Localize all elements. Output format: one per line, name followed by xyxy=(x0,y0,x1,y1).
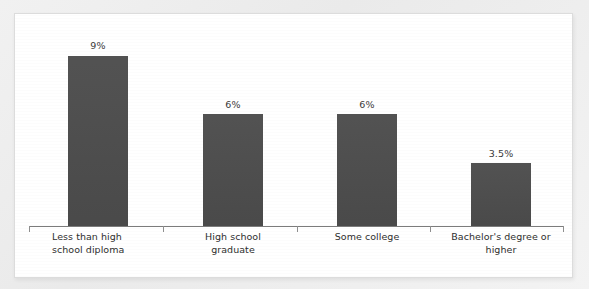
x-axis-tick-0 xyxy=(29,226,30,232)
bar-value-label-2: 6% xyxy=(337,99,397,110)
x-axis-tick-1 xyxy=(163,226,164,232)
bar-bachelors-degree-or-higher xyxy=(471,163,531,226)
x-axis-tick-4 xyxy=(563,226,564,232)
x-axis-category-label-1: High school graduate xyxy=(183,231,283,256)
bar-value-label-1: 6% xyxy=(203,99,263,110)
x-axis-category-label-3: Bachelor's degree or higher xyxy=(441,231,561,256)
bar-value-label-3: 3.5% xyxy=(471,148,531,159)
bar-value-label-0: 9% xyxy=(68,40,128,51)
bar-high-school-graduate xyxy=(203,114,263,226)
x-axis-category-label-0: Less than high school diploma xyxy=(52,231,152,256)
bar-less-than-high-school-diploma xyxy=(68,56,128,226)
chart-page: 9% Less than high school diploma 6% High… xyxy=(0,0,589,289)
x-axis-tick-3 xyxy=(430,226,431,232)
x-axis-tick-2 xyxy=(297,226,298,232)
bar-chart-plot-area: 9% Less than high school diploma 6% High… xyxy=(0,0,589,289)
x-axis-category-label-2: Some college xyxy=(317,231,417,244)
bar-some-college xyxy=(337,114,397,226)
